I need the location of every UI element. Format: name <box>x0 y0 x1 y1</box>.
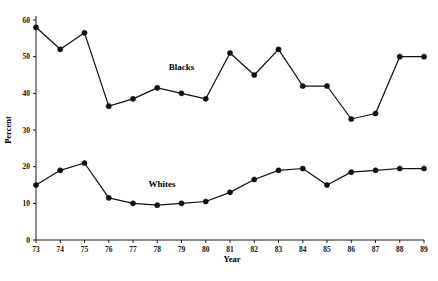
data-point <box>33 25 38 30</box>
x-tick-label: 84 <box>299 245 307 254</box>
data-point <box>130 96 135 101</box>
y-tick-label: 40 <box>23 89 31 98</box>
series-label-whites: Whites <box>149 179 176 189</box>
data-point <box>349 170 354 175</box>
y-tick-label: 30 <box>23 126 31 135</box>
x-tick-label: 86 <box>348 245 356 254</box>
x-tick-label: 77 <box>129 245 137 254</box>
data-point <box>82 160 87 165</box>
x-tick-label: 89 <box>420 245 428 254</box>
data-point <box>300 166 305 171</box>
data-point <box>130 201 135 206</box>
x-tick-label: 80 <box>202 245 210 254</box>
y-tick-label: 10 <box>23 199 31 208</box>
x-tick-label: 79 <box>178 245 186 254</box>
data-point <box>179 201 184 206</box>
data-point <box>227 190 232 195</box>
data-point <box>203 96 208 101</box>
series-group <box>33 25 426 208</box>
y-tick-label: 60 <box>23 16 31 25</box>
y-tick-label: 50 <box>23 52 31 61</box>
chart-figure: 0102030405060 73747576777879808182838485… <box>0 0 438 281</box>
data-point <box>276 47 281 52</box>
x-tick-label: 74 <box>57 245 65 254</box>
data-point <box>397 166 402 171</box>
y-axis-title: Percent <box>3 116 13 144</box>
data-point <box>276 168 281 173</box>
y-tick-label: 20 <box>23 162 31 171</box>
series-annotations: BlacksWhites <box>149 62 195 189</box>
axes-group <box>36 16 424 240</box>
x-tick-label: 76 <box>105 245 113 254</box>
data-point <box>349 116 354 121</box>
data-point <box>106 104 111 109</box>
data-point <box>397 54 402 59</box>
data-point <box>373 111 378 116</box>
x-tick-label: 87 <box>372 245 380 254</box>
data-point <box>324 182 329 187</box>
data-point <box>203 199 208 204</box>
x-tick-label: 82 <box>251 245 259 254</box>
x-axis-title: Year <box>224 254 241 264</box>
y-tick-label: 0 <box>26 236 30 245</box>
series-line-blacks <box>36 27 424 119</box>
x-tick-label: 75 <box>81 245 89 254</box>
data-point <box>421 54 426 59</box>
x-axis-ticks: 7374757677787980818283848586878889 <box>32 240 428 254</box>
data-point <box>252 177 257 182</box>
data-point <box>227 50 232 55</box>
data-point <box>58 168 63 173</box>
series-label-blacks: Blacks <box>169 62 195 72</box>
data-point <box>373 168 378 173</box>
line-chart: 0102030405060 73747576777879808182838485… <box>0 0 438 281</box>
data-point <box>58 47 63 52</box>
data-point <box>252 72 257 77</box>
data-point <box>82 30 87 35</box>
x-tick-label: 83 <box>275 245 283 254</box>
x-tick-label: 81 <box>226 245 234 254</box>
data-point <box>300 83 305 88</box>
data-point <box>421 166 426 171</box>
x-tick-label: 85 <box>323 245 331 254</box>
data-point <box>324 83 329 88</box>
data-point <box>155 85 160 90</box>
data-point <box>179 91 184 96</box>
data-point <box>106 195 111 200</box>
series-line-whites <box>36 163 424 205</box>
x-tick-label: 88 <box>396 245 404 254</box>
data-point <box>33 182 38 187</box>
y-axis-ticks: 0102030405060 <box>23 16 37 245</box>
x-tick-label: 73 <box>32 245 40 254</box>
x-tick-label: 78 <box>154 245 162 254</box>
data-point <box>155 203 160 208</box>
